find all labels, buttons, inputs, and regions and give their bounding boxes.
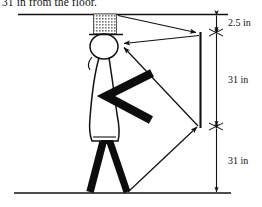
light-rays	[118, 16, 199, 193]
diagram-canvas: 2.5 in 31 in 31 in	[0, 0, 262, 207]
head	[90, 34, 118, 59]
dim-label-31in-lower: 31 in	[228, 155, 248, 166]
right-leg	[110, 142, 127, 192]
mirror-to-eye-ray	[124, 36, 199, 44]
stick-figure-person	[88, 14, 152, 192]
ceiling-to-mirror-ray	[118, 16, 196, 33]
neck-line	[88, 57, 92, 70]
dimension-annotations: 2.5 in 31 in 31 in	[209, 16, 251, 193]
dim-label-2p5in: 2.5 in	[228, 17, 251, 28]
hat-crown	[94, 14, 117, 34]
left-leg	[90, 142, 103, 192]
dim-label-31in-upper: 31 in	[228, 74, 248, 85]
optics-ray-diagram-figure: 31 in from the floor.	[0, 0, 262, 207]
floor-to-mirror-bottom-ray	[128, 127, 197, 192]
